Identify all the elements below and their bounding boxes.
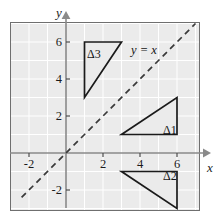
line-equation-label: y = x bbox=[131, 44, 157, 57]
x-tick-label-2: 2 bbox=[97, 158, 109, 171]
y-tick-label-4: 4 bbox=[50, 73, 62, 86]
x-tick-label-neg2: -2 bbox=[20, 158, 38, 171]
triangle-2-label: Δ2 bbox=[163, 170, 177, 182]
triangle-1-label: Δ1 bbox=[163, 124, 177, 136]
y-tick-label-neg2: -2 bbox=[44, 184, 62, 197]
y-tick-label-6: 6 bbox=[50, 36, 62, 49]
x-axis-label: x bbox=[207, 161, 213, 174]
coordinate-grid-figure: y x -2 2 4 6 6 4 2 -2 y = x Δ3 Δ1 Δ2 bbox=[0, 0, 222, 217]
y-axis-label: y bbox=[56, 6, 62, 19]
x-axis-arrowhead bbox=[203, 149, 211, 158]
triangle-3-label: Δ3 bbox=[87, 48, 101, 60]
x-tick-label-4: 4 bbox=[134, 158, 146, 171]
y-tick-label-2: 2 bbox=[50, 110, 62, 123]
plot-canvas bbox=[0, 0, 222, 217]
y-axis-arrowhead bbox=[62, 11, 71, 19]
